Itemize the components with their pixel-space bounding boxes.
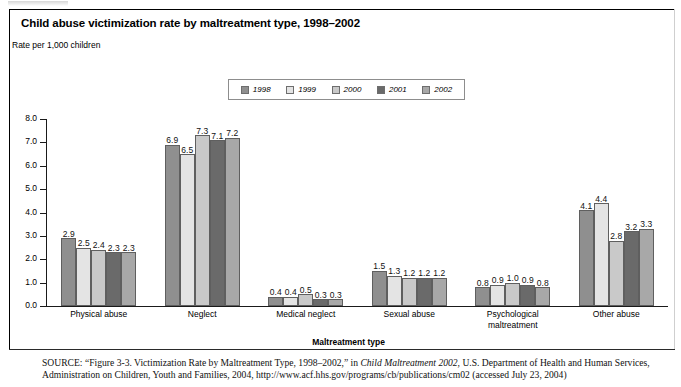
bar[interactable]: 7.1 xyxy=(210,140,225,306)
y-axis-tick-mark xyxy=(40,189,47,190)
bar[interactable]: 2.5 xyxy=(76,248,91,306)
x-axis-category-label-line: Neglect xyxy=(151,309,255,320)
bar[interactable]: 0.3 xyxy=(328,299,343,306)
bar[interactable]: 7.2 xyxy=(225,138,240,306)
cropped-text-remnant xyxy=(8,1,68,6)
y-axis-tick-label-wrap: 7.0 xyxy=(0,137,37,147)
bar-value-label: 7.1 xyxy=(211,132,223,141)
bar-value-label: 0.9 xyxy=(492,276,504,285)
source-text-part1: “Figure 3-3. Victimization Rate by Maltr… xyxy=(83,357,361,368)
y-axis-tick-mark xyxy=(40,236,47,237)
source-note: SOURCE: “Figure 3-3. Victimization Rate … xyxy=(42,357,674,382)
y-axis-tick-label: 1.0 xyxy=(3,278,37,287)
y-axis-tick-label: 5.0 xyxy=(3,184,37,193)
bar-value-label: 2.3 xyxy=(108,244,120,253)
y-axis-tick-label: 3.0 xyxy=(3,231,37,240)
source-label: SOURCE: xyxy=(42,357,83,368)
bar-group-bars: 1.51.31.21.21.2 xyxy=(358,119,462,306)
legend-item[interactable]: 1998 xyxy=(241,86,271,94)
bar[interactable]: 0.4 xyxy=(283,297,298,306)
y-axis-tick-label-wrap: 1.0 xyxy=(0,278,37,288)
bar[interactable]: 0.4 xyxy=(268,297,283,306)
bar[interactable]: 4.1 xyxy=(579,210,594,306)
x-axis-category-label-line: Other abuse xyxy=(565,309,669,320)
source-publication-title: Child Maltreatment 2002 xyxy=(360,357,457,368)
bar[interactable]: 1.2 xyxy=(402,278,417,306)
bar-value-label: 0.8 xyxy=(537,279,549,288)
bar[interactable]: 4.4 xyxy=(594,203,609,306)
bar[interactable]: 6.9 xyxy=(165,145,180,306)
bar[interactable]: 0.8 xyxy=(475,287,490,306)
legend-swatch-icon xyxy=(422,86,430,94)
bar-group: 1.51.31.21.21.2Sexual abuse xyxy=(358,119,462,306)
bar[interactable]: 1.2 xyxy=(417,278,432,306)
bar[interactable]: 1.0 xyxy=(505,283,520,306)
bar[interactable]: 0.8 xyxy=(535,287,550,306)
bar[interactable]: 0.5 xyxy=(298,294,313,306)
y-axis-tick-mark xyxy=(40,142,47,143)
y-axis-tick-mark xyxy=(40,119,47,120)
bar[interactable]: 6.5 xyxy=(180,154,195,306)
y-axis-tick-label: 2.0 xyxy=(3,254,37,263)
y-axis-tick-label: 7.0 xyxy=(3,137,37,146)
bar-value-label: 1.2 xyxy=(418,269,430,278)
x-axis-category-label: Physical abuse xyxy=(47,309,151,320)
legend-swatch-icon xyxy=(377,86,385,94)
bar-value-label: 0.4 xyxy=(270,288,282,297)
bar-value-label: 0.8 xyxy=(477,279,489,288)
bar[interactable]: 1.5 xyxy=(372,271,387,306)
y-axis-tick-label-wrap: 8.0 xyxy=(0,114,37,124)
figure-container: Child abuse victimization rate by maltre… xyxy=(0,0,681,387)
bar-value-label: 1.0 xyxy=(507,274,519,283)
bar-value-label: 2.9 xyxy=(63,230,75,239)
bar[interactable]: 0.9 xyxy=(520,285,535,306)
bar[interactable]: 3.2 xyxy=(624,231,639,306)
y-axis-tick-label-wrap: 5.0 xyxy=(0,184,37,194)
legend-label: 1999 xyxy=(298,86,316,94)
x-axis-category-label-line: Psychological xyxy=(461,309,565,320)
y-axis-tick-label: 0.0 xyxy=(3,301,37,310)
bar-value-label: 0.4 xyxy=(285,288,297,297)
x-axis-line xyxy=(46,306,668,307)
bar-value-label: 1.2 xyxy=(433,269,445,278)
x-axis-category-label: Neglect xyxy=(151,309,255,320)
bar[interactable]: 1.2 xyxy=(432,278,447,306)
bar[interactable]: 2.3 xyxy=(106,252,121,306)
y-axis-tick-label-wrap: 4.0 xyxy=(0,208,37,218)
x-axis-category-label-line: Physical abuse xyxy=(47,309,151,320)
bar[interactable]: 3.3 xyxy=(639,229,654,306)
bar[interactable]: 2.9 xyxy=(61,238,76,306)
y-axis-tick-mark xyxy=(40,283,47,284)
bar[interactable]: 7.3 xyxy=(195,135,210,306)
y-axis-tick-label-wrap: 6.0 xyxy=(0,161,37,171)
bar-value-label: 2.8 xyxy=(610,232,622,241)
figure-frame-right-edge xyxy=(674,9,675,350)
bar-group: 6.96.57.37.17.2Neglect xyxy=(151,119,255,306)
legend-swatch-icon xyxy=(286,86,294,94)
bar-value-label: 0.3 xyxy=(315,291,327,300)
bar-value-label: 1.5 xyxy=(373,262,385,271)
bar[interactable]: 2.8 xyxy=(609,241,624,306)
bar[interactable]: 0.3 xyxy=(313,299,328,306)
x-axis-category-label-line: Sexual abuse xyxy=(358,309,462,320)
legend-label: 2002 xyxy=(434,86,452,94)
y-axis-tick-label-wrap: 2.0 xyxy=(0,254,37,264)
bar-value-label: 0.5 xyxy=(300,286,312,295)
legend-item[interactable]: 2001 xyxy=(377,86,407,94)
bar[interactable]: 0.9 xyxy=(490,285,505,306)
x-axis-category-label: Other abuse xyxy=(565,309,669,320)
bar-value-label: 4.4 xyxy=(595,195,607,204)
legend-item[interactable]: 1999 xyxy=(286,86,316,94)
bar-value-label: 0.3 xyxy=(330,291,342,300)
bar-value-label: 2.3 xyxy=(123,244,135,253)
legend-item[interactable]: 2000 xyxy=(332,86,362,94)
bar[interactable]: 2.4 xyxy=(91,250,106,306)
bar[interactable]: 1.3 xyxy=(387,276,402,306)
legend-label: 1998 xyxy=(253,86,271,94)
legend-item[interactable]: 2002 xyxy=(422,86,452,94)
y-axis-tick-label-wrap: 3.0 xyxy=(0,231,37,241)
bar[interactable]: 2.3 xyxy=(121,252,136,306)
x-axis-category-label: Psychologicalmaltreatment xyxy=(461,309,565,331)
bar-value-label: 3.2 xyxy=(625,223,637,232)
bar-value-label: 4.1 xyxy=(580,202,592,211)
